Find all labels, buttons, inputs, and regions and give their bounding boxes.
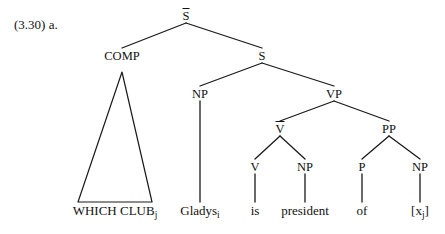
edge-vbar-np (280, 136, 305, 159)
terminal-gladys-index: i (217, 210, 220, 220)
edge-vbar-v (255, 136, 280, 159)
edge-pp-np (389, 136, 420, 159)
node-p: P (359, 161, 366, 174)
terminal-which-club-text: WHICH CLUB (73, 203, 155, 218)
edge-sbar-comp (122, 23, 186, 48)
edge-s-vp (262, 63, 334, 86)
comp-abbreviation-triangle (78, 72, 152, 202)
edge-vp-vbar (280, 101, 334, 121)
terminal-gladys: Gladysi (180, 204, 219, 220)
terminal-trace-suffix: ] (425, 203, 429, 218)
node-s-bar: S (183, 10, 190, 23)
terminal-gladys-text: Gladys (180, 203, 217, 218)
node-v-bar: V (275, 123, 284, 136)
terminal-is: is (251, 204, 260, 217)
terminal-president-text: president (281, 203, 329, 218)
terminal-of: of (357, 204, 368, 217)
terminal-which-club-index: j (155, 210, 158, 220)
edge-vp-pp (334, 101, 389, 121)
node-s: S (259, 50, 266, 63)
node-np-trace: NP (412, 161, 428, 174)
edge-pp-p (362, 136, 389, 159)
node-pp: PP (382, 123, 396, 136)
node-v: V (250, 161, 259, 174)
node-np-predicate: NP (297, 161, 313, 174)
terminal-which-club: WHICH CLUBj (73, 204, 158, 220)
terminal-trace: [xj] (411, 204, 429, 220)
terminal-is-text: is (251, 203, 260, 218)
node-vp: VP (326, 88, 342, 101)
edge-sbar-s (186, 23, 262, 48)
terminal-of-text: of (357, 203, 368, 218)
terminal-president: president (281, 204, 329, 217)
syntax-tree-edges (0, 0, 445, 234)
terminal-trace-text: [x (411, 203, 422, 218)
node-comp: COMP (104, 50, 139, 63)
edge-s-np (200, 63, 262, 86)
figure-canvas: (3.30) a. S COMP S NP VP V PP V NP P NP … (0, 0, 445, 234)
node-np-subject: NP (192, 88, 208, 101)
